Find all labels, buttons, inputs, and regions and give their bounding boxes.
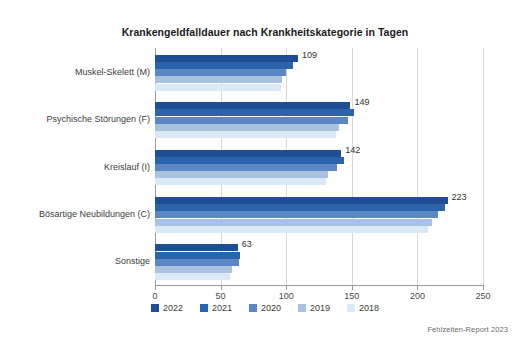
x-axis-tick-label: 0: [135, 291, 175, 301]
bar-2022-1: [155, 102, 350, 109]
bar-2019-1: [155, 124, 339, 131]
bar-2020-0: [155, 69, 286, 76]
x-axis-tick: [417, 286, 418, 290]
category-label: Muskel-Skelett (M): [2, 67, 150, 77]
legend-swatch-icon: [347, 304, 355, 312]
category-label: Kreislauf (I): [2, 162, 150, 172]
chart-figure: Krankengeldfalldauer nach Krankheitskate…: [0, 0, 530, 355]
bar-2019-0: [155, 76, 282, 83]
bar-2018-4: [155, 273, 230, 280]
x-axis-tick-label: 150: [332, 291, 372, 301]
x-axis-tick-label: 100: [266, 291, 306, 301]
bar-2018-3: [155, 226, 428, 233]
bar-value-label: 149: [354, 98, 369, 107]
bar-value-label: 223: [452, 193, 467, 202]
legend-item-2018[interactable]: 2018: [347, 303, 379, 313]
chart-title: Krankengeldfalldauer nach Krankheitskate…: [0, 26, 530, 38]
bar-2018-1: [155, 131, 336, 138]
bar-2022-3: [155, 197, 448, 204]
gridline: [352, 48, 353, 285]
bar-2020-1: [155, 117, 348, 124]
legend-label: 2019: [310, 303, 330, 313]
legend-label: 2020: [261, 303, 281, 313]
legend-swatch-icon: [151, 304, 159, 312]
bar-value-label: 142: [345, 146, 360, 155]
bar-value-label: 63: [242, 240, 252, 249]
bar-2021-1: [155, 109, 354, 116]
legend-item-2021[interactable]: 2021: [200, 303, 232, 313]
category-label: Psychische Störungen (F): [2, 114, 150, 124]
legend-label: 2018: [359, 303, 379, 313]
bar-2021-4: [155, 252, 240, 259]
bar-2022-2: [155, 150, 341, 157]
bar-2022-4: [155, 244, 238, 251]
bar-2022-0: [155, 55, 298, 62]
x-axis-tick: [483, 286, 484, 290]
source-note: Fehlzeiten-Report 2023: [427, 325, 508, 334]
bar-2020-2: [155, 164, 337, 171]
x-axis-tick: [352, 286, 353, 290]
category-label: Sonstige: [2, 256, 150, 266]
bar-2021-0: [155, 62, 293, 69]
bar-2018-2: [155, 178, 326, 185]
x-axis-tick: [286, 286, 287, 290]
gridline: [483, 48, 484, 285]
x-axis-tick-label: 50: [201, 291, 241, 301]
bar-value-label: 109: [302, 51, 317, 60]
legend-item-2019[interactable]: 2019: [298, 303, 330, 313]
legend-label: 2021: [212, 303, 232, 313]
bar-2021-3: [155, 204, 445, 211]
bar-2020-3: [155, 211, 438, 218]
chart-legend: 20222021202020192018: [0, 303, 530, 313]
category-axis-labels: Muskel-Skelett (M)Psychische Störungen (…: [0, 48, 150, 285]
bar-2020-4: [155, 259, 239, 266]
bar-2021-2: [155, 157, 344, 164]
x-axis-line: [155, 285, 484, 286]
bar-2018-0: [155, 84, 281, 91]
legend-swatch-icon: [200, 304, 208, 312]
legend-item-2022[interactable]: 2022: [151, 303, 183, 313]
bar-2019-4: [155, 266, 232, 273]
legend-label: 2022: [163, 303, 183, 313]
legend-swatch-icon: [298, 304, 306, 312]
gridline: [417, 48, 418, 285]
plot-area: 10914914222363: [155, 48, 483, 285]
bar-2019-3: [155, 219, 432, 226]
x-axis-tick: [155, 286, 156, 290]
legend-swatch-icon: [249, 304, 257, 312]
x-axis-tick: [221, 286, 222, 290]
x-axis-tick-label: 200: [397, 291, 437, 301]
category-label: Bösartige Neubildungen (C): [2, 209, 150, 219]
x-axis-tick-label: 250: [463, 291, 503, 301]
bar-2019-2: [155, 171, 328, 178]
legend-item-2020[interactable]: 2020: [249, 303, 281, 313]
